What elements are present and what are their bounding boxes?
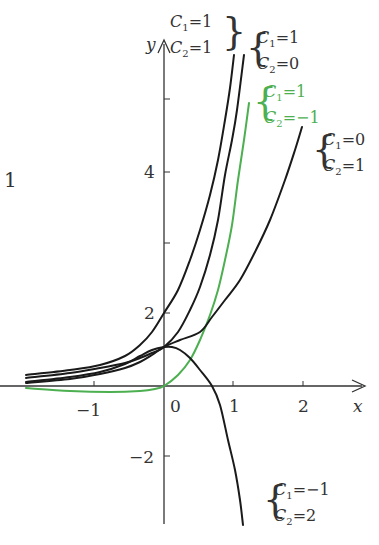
x-tick-label-neg1: −1 (76, 402, 101, 419)
curve-4 (26, 347, 243, 525)
x-tick-label-0: 0 (170, 398, 181, 415)
y-axis-label: y (146, 36, 156, 53)
chart-figure: x y −1 0 1 2 4 2 −2 1 C1=1 C2=1 } { C1=1… (0, 0, 379, 545)
y-tick-label-4: 4 (144, 164, 155, 181)
x-axis-label: x (353, 398, 363, 415)
y-tick-label-neg2: −2 (129, 449, 154, 466)
curve-label-c1-1-c2-0: C1=1 C2=0 (257, 28, 299, 80)
curve-2 (26, 103, 249, 392)
plot-area (0, 0, 379, 545)
x-tick-label-1: 1 (229, 398, 240, 415)
y-tick-label-2: 2 (144, 305, 155, 322)
brace-right-icon: } (222, 12, 246, 50)
curve-1 (26, 55, 244, 378)
curve-label-c1-1-c2-1: C1=1 C2=1 (170, 12, 212, 64)
x-tick-label-2: 2 (298, 398, 309, 415)
left-edge-label: 1 (4, 170, 17, 190)
curve-0 (26, 55, 234, 375)
curve-label-c1-0-c2-1: C1=0 C2=1 (323, 130, 365, 182)
curve-label-c1-neg1-c2-2: C1=−1 C2=2 (274, 480, 330, 532)
y-axis (158, 40, 170, 524)
